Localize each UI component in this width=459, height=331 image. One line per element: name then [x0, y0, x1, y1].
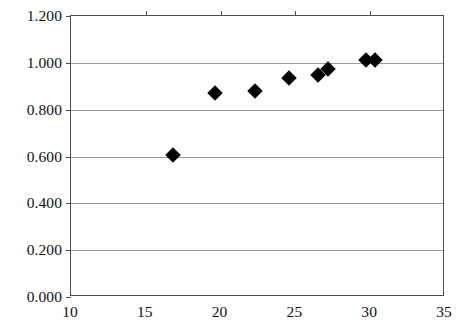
x-axis-tick — [221, 11, 222, 16]
y-axis-tick — [66, 16, 71, 17]
gridline — [71, 110, 443, 111]
x-axis-tick-label: 25 — [269, 304, 319, 320]
data-point — [282, 70, 298, 86]
y-axis-tick — [66, 297, 71, 298]
y-axis-tick — [66, 157, 71, 158]
y-axis-tick-label: 0.000 — [0, 289, 62, 305]
x-axis-tick-label: 15 — [120, 304, 170, 320]
data-point — [247, 83, 263, 99]
y-axis-tick — [66, 110, 71, 111]
x-axis-tick-label: 30 — [344, 304, 394, 320]
y-axis-tick-label: 1.200 — [0, 8, 62, 24]
gridline — [71, 250, 443, 251]
gridline — [71, 63, 443, 64]
x-axis-tick — [146, 11, 147, 16]
x-axis-tick-label: 10 — [45, 304, 95, 320]
scatter-chart: 0.0000.2000.4000.6000.8001.0001.200 1015… — [0, 0, 459, 331]
gridline — [71, 157, 443, 158]
y-axis-tick-label: 0.600 — [0, 149, 62, 165]
y-axis-tick-label: 0.400 — [0, 195, 62, 211]
x-axis-tick-label: 35 — [419, 304, 459, 320]
gridline — [71, 203, 443, 204]
y-axis-tick — [66, 63, 71, 64]
y-axis-tick-label: 0.800 — [0, 102, 62, 118]
x-axis-tick — [295, 11, 296, 16]
y-axis-tick-label: 1.000 — [0, 55, 62, 71]
x-axis-tick — [370, 11, 371, 16]
y-axis-tick — [66, 250, 71, 251]
y-axis-tick-label: 0.200 — [0, 242, 62, 258]
x-axis-tick-label: 20 — [195, 304, 245, 320]
data-point — [165, 148, 181, 164]
data-point — [207, 85, 223, 101]
plot-area — [70, 15, 444, 296]
y-axis-tick — [66, 203, 71, 204]
